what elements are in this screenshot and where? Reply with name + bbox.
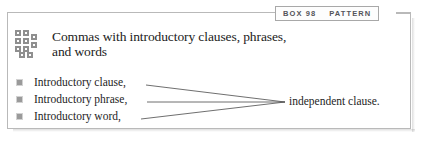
list-item-text: Introductory clause [34,76,123,88]
list-item-text: Introductory word [34,110,118,122]
box-type-label: PATTERN [329,10,371,18]
introductory-elements-list: Introductory clause, Introductory phrase… [16,74,196,125]
highlighted-comma: , [124,93,127,106]
box-title-line-1: Commas with introductory clauses, phrase… [52,29,286,44]
box-shadow-right [412,18,415,132]
list-item: Introductory phrase, [16,91,196,108]
highlighted-comma: , [118,110,121,123]
bullet-square-icon [16,79,23,86]
list-item-text: Introductory phrase [34,93,124,105]
independent-clause-label: independent clause. [289,95,380,108]
box-shadow-bottom [13,129,415,132]
box-header: Commas with introductory clauses, phrase… [12,16,392,59]
box-number-label: BOX 98 [283,10,316,18]
list-item: Introductory word, [16,108,196,125]
list-item: Introductory clause, [16,74,196,91]
list-item-label: Introductory word, [34,110,121,123]
highlighted-comma: , [123,76,126,89]
box-tab: BOX 98 PATTERN [275,6,379,21]
bullet-square-icon [16,96,23,103]
list-item-label: Introductory phrase, [34,93,127,106]
grid-motif-icon [12,29,42,59]
list-item-label: Introductory clause, [34,76,126,89]
box-title: Commas with introductory clauses, phrase… [52,29,286,59]
box-figure: BOX 98 PATTERN [0,0,427,145]
tab-connector-stub [396,13,410,14]
box-title-line-2: and words [52,44,286,59]
bullet-square-icon [16,113,23,120]
